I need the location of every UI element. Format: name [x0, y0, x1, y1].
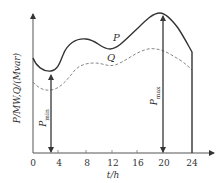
tick-label-24: 24	[186, 158, 198, 168]
pmin-label: Pmin	[38, 109, 50, 128]
svg-text:Pmax: Pmax	[149, 86, 161, 106]
tick-label-12: 12	[107, 158, 118, 168]
y-axis-label: P/MW,Q/(Mvar)	[12, 52, 22, 124]
tick-label-16: 16	[132, 158, 144, 168]
x-tick-labels: 0 4 8 12 16 20 24	[30, 158, 198, 168]
p-series-label: P	[112, 32, 120, 43]
q-series-label: Q	[107, 52, 115, 63]
tick-label-20: 20	[158, 158, 170, 168]
tick-label-0: 0	[30, 158, 36, 168]
pmax-label: Pmax	[149, 86, 161, 106]
tick-label-8: 8	[84, 158, 90, 168]
svg-text:Pmin: Pmin	[38, 109, 50, 128]
tick-label-4: 4	[56, 158, 62, 168]
x-axis-label: t/h	[107, 170, 119, 180]
load-curve-chart: 0 4 8 12 16 20 24 t/h P/MW,Q/(Mvar) P Q …	[0, 0, 222, 183]
